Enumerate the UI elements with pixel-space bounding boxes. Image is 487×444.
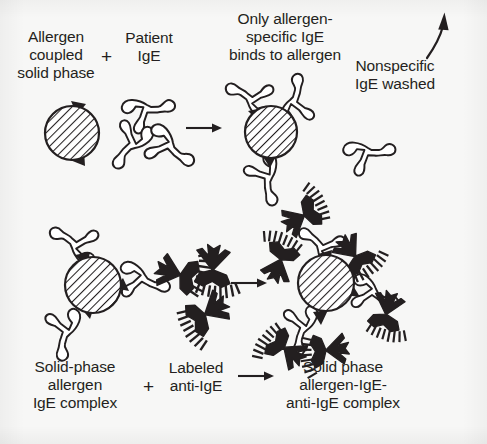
row1-wash-label: Nonspecific IgE washed (345, 57, 445, 93)
row1-plus-sign: + (101, 47, 112, 66)
row2-plus-sign: + (143, 377, 154, 396)
row1-reaction-arrow (186, 123, 222, 132)
row2-solid-phase-ige-complex (43, 215, 173, 361)
row2-labeled-anti-ige-cluster (151, 240, 243, 353)
row1-patient-ige-cluster (101, 87, 202, 178)
row2-product-arrow (238, 371, 274, 380)
row2-reactant-b-label: Labeled anti-IgE (160, 359, 232, 395)
wash-arrow-icon (427, 13, 449, 59)
row2-final-complex (248, 180, 418, 383)
row1-solid-phase-bead (44, 101, 99, 166)
row2-product-label: Solid phase allergen-IgE- anti-IgE compl… (278, 358, 408, 412)
row1-reactant-a-label: Allergen coupled solid phase (8, 28, 104, 82)
row1-reactant-b-label: Patient IgE (116, 29, 182, 65)
row1-washed-ige (342, 131, 400, 178)
row2-reactant-a-label: Solid-phase allergen IgE complex (19, 358, 131, 412)
row1-product-label: Only allergen- specific IgE binds to all… (216, 10, 354, 64)
figure-canvas: Allergen coupled solid phase + Patient I… (0, 0, 487, 444)
row1-bound-complex (220, 71, 314, 210)
